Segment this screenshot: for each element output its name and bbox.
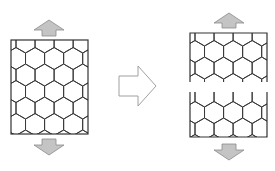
tension-arrow-up-icon (34, 20, 64, 36)
hexagon-cell (6, 15, 25, 37)
hexagon-cell (262, 41, 275, 63)
hexagon-cell (166, 135, 185, 157)
hexagon-cell (0, 97, 16, 119)
hexagon-cell (166, 8, 185, 30)
hexagon-cell (262, 69, 275, 91)
hexagon-lattice (166, 69, 275, 157)
hexagon-cell (0, 81, 6, 103)
hexagon-cell (64, 15, 83, 37)
hexagon-cell (271, 85, 275, 107)
hexagon-cell (243, 135, 262, 157)
hexagon-cell (166, 74, 185, 96)
hexagon-cell (0, 48, 6, 70)
hexagon-cell (92, 97, 111, 119)
hexagon-cell (0, 15, 6, 37)
hexagon-cell (92, 31, 111, 53)
fragment-frame (190, 92, 267, 137)
hexagon-cell (243, 8, 262, 30)
hexagon-cell (73, 130, 92, 152)
hexagon-cell (92, 64, 111, 86)
hexagon-cell (185, 8, 204, 30)
hexagon-cell (166, 41, 185, 63)
hexagon-cell (262, 8, 275, 30)
hexagon-cell (271, 90, 275, 112)
tension-arrow-down-icon (34, 139, 64, 155)
hexagon-cell (166, 69, 185, 91)
fragment-frame (190, 33, 267, 82)
hexagon-cell (0, 114, 6, 136)
hexagon-cell (271, 57, 275, 79)
tension-arrow-down-icon (214, 144, 244, 160)
hexagon-cell (271, 118, 275, 140)
hexagon-cell (0, 64, 16, 86)
hexagon-cell (185, 135, 204, 157)
fracture-diagram (0, 0, 275, 171)
hexagon-cell (166, 102, 185, 124)
hexagon-cell (0, 31, 16, 53)
diagram-stage (0, 0, 275, 171)
hexagon-cell (262, 135, 275, 157)
hexagon-cell (271, 24, 275, 46)
hexagon-cell (176, 90, 195, 112)
hexagon-cell (262, 74, 275, 96)
hexagon-cell (0, 130, 16, 152)
hexagon-cell (262, 102, 275, 124)
lower-fragment-panel (166, 69, 275, 157)
lattice-frame (11, 40, 88, 134)
hexagon-cell (83, 15, 102, 37)
hexagon-cell (92, 130, 111, 152)
right-arrow-outline-icon (119, 66, 156, 106)
tension-arrow-up-icon (214, 13, 244, 28)
hexagon-cell (16, 130, 35, 152)
